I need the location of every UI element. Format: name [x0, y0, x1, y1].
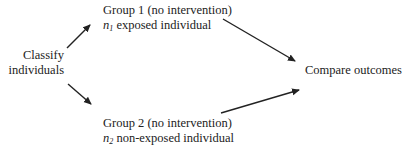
arrow-classify-to-group1 — [67, 25, 90, 48]
group2-title: Group 2 (no intervention) — [103, 116, 234, 131]
arrow-group2-to-compare — [221, 90, 299, 113]
group2-desc: non-exposed individual — [113, 131, 234, 145]
group1-title: Group 1 (no intervention) — [103, 3, 232, 18]
arrow-group1-to-compare — [223, 19, 295, 61]
compare-outcomes-node: Compare outcomes — [305, 63, 402, 78]
group1-desc-line: n1 exposed individual — [103, 18, 232, 36]
arrow-classify-to-group2 — [68, 84, 91, 104]
group2-desc-line: n2 non-exposed individual — [103, 131, 234, 149]
classify-line1: Classify — [0, 48, 64, 63]
group1-node: Group 1 (no intervention) n1 exposed ind… — [103, 3, 232, 36]
group2-node: Group 2 (no intervention) n2 non-exposed… — [103, 116, 234, 149]
classify-line2: individuals — [0, 63, 64, 78]
group1-desc: exposed individual — [113, 18, 211, 32]
classify-node: Classify individuals — [0, 48, 64, 78]
